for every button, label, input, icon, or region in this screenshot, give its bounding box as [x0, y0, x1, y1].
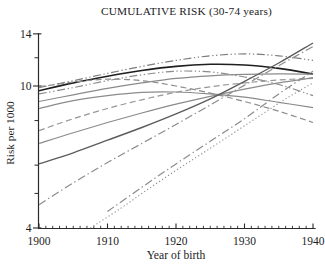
y-tick-label: 10: [20, 80, 32, 92]
series-solid-rising: [39, 78, 313, 144]
x-tick-label: 1900: [28, 235, 51, 247]
series-solid-plateau: [39, 74, 313, 102]
x-tick-label: 1940: [302, 235, 325, 247]
y-tick-label: 4: [26, 222, 32, 234]
x-tick-label: 1930: [233, 235, 256, 247]
plot-area: 1410419001910192019301940: [0, 0, 325, 269]
figure: CUMULATIVE RISK (30-74 years) Risk per 1…: [0, 0, 325, 269]
series-solid-steep: [39, 43, 313, 164]
x-tick-label: 1920: [165, 235, 188, 247]
series-solid-hump: [39, 92, 313, 109]
series-dashdot-steep: [39, 47, 313, 205]
x-tick-label: 1910: [96, 235, 119, 247]
x-axis-label: Year of birth: [39, 249, 313, 262]
y-tick-label: 14: [20, 28, 32, 40]
